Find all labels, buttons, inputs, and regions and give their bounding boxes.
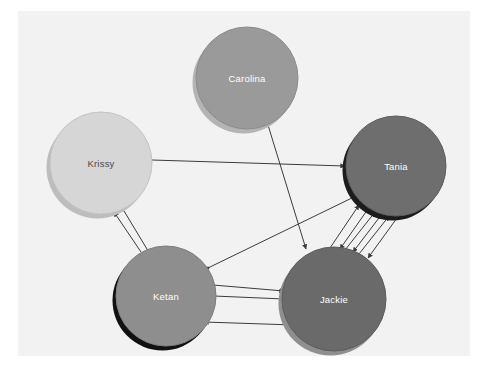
node-circle-ketan[interactable] xyxy=(116,246,216,346)
nodes-layer: CarolinaKrissyTaniaKetanJackie xyxy=(47,27,447,356)
node-circle-tania[interactable] xyxy=(346,116,446,216)
network-diagram: CarolinaKrissyTaniaKetanJackie xyxy=(0,0,492,379)
edge-jackie-tania-1 xyxy=(330,205,359,248)
node-circle-krissy[interactable] xyxy=(50,112,152,214)
node-circle-carolina[interactable] xyxy=(196,27,298,129)
node-krissy[interactable]: Krissy xyxy=(47,112,153,219)
node-carolina[interactable]: Carolina xyxy=(193,27,299,134)
edge-ketan-jackie-b xyxy=(214,296,284,299)
edge-tania-jackie-2 xyxy=(340,209,368,249)
edge-krissy-tania xyxy=(152,160,345,166)
edge-tania-jackie-4 xyxy=(353,214,382,252)
graph-svg: CarolinaKrissyTaniaKetanJackie xyxy=(0,0,492,379)
edge-jackie-ketan-c xyxy=(204,322,294,325)
node-ketan[interactable]: Ketan xyxy=(113,246,217,351)
node-tania[interactable]: Tania xyxy=(343,116,447,221)
edge-carolina-jackie xyxy=(268,125,306,249)
edge-jackie-tania-3 xyxy=(345,212,375,250)
node-jackie[interactable]: Jackie xyxy=(279,247,387,356)
node-circle-jackie[interactable] xyxy=(282,247,386,351)
edge-ketan-jackie-a xyxy=(213,285,284,291)
